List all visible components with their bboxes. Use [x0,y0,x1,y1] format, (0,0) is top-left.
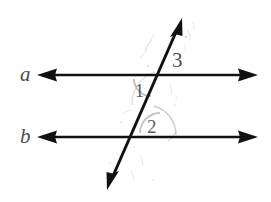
transversal-bottom-arrowhead [107,171,120,190]
line-b-right-arrowhead [238,131,258,144]
line-b-left-arrowhead [37,131,57,144]
angle-1-label: 1 [135,82,144,100]
angle-3-label: 3 [172,50,183,71]
line-a [37,69,258,82]
line-a-right-arrowhead [238,69,258,82]
angle-2-label: 2 [147,117,157,136]
geometry-canvas [0,0,271,202]
line-a-left-arrowhead [37,69,57,82]
angle-2-outer-arc [154,106,176,135]
line-b-label: b [20,126,31,147]
line-a-label: a [20,64,31,85]
geometry-figure: a b 1 2 3 [0,0,271,202]
transversal-top-arrowhead [170,18,183,37]
transversal-line [107,18,183,190]
